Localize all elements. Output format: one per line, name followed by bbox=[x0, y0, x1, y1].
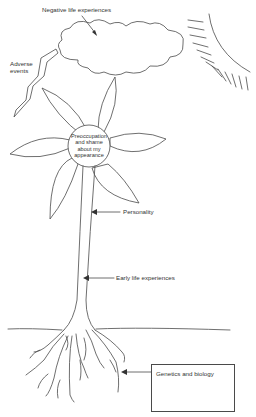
cloud-shape bbox=[58, 20, 183, 75]
label-negative-life-experiences: Negative life experiences bbox=[42, 6, 111, 13]
label-personality: Personality bbox=[123, 208, 154, 215]
label-adverse-line2: events bbox=[10, 67, 33, 74]
sun-icon bbox=[188, 14, 250, 90]
label-early-life-experiences: Early life experiences bbox=[116, 274, 175, 281]
label-flower-center: Preoccupation and shame about my appeara… bbox=[69, 133, 109, 159]
roots bbox=[26, 330, 125, 402]
center-line4: appearance bbox=[69, 152, 109, 158]
label-genetics-and-biology: Genetics and biology bbox=[156, 370, 214, 377]
stem bbox=[64, 166, 95, 330]
label-adverse-events: Adverse events bbox=[10, 60, 33, 75]
ground-line bbox=[8, 328, 230, 330]
genetics-box: Genetics and biology bbox=[151, 364, 235, 412]
label-adverse-line1: Adverse bbox=[10, 60, 33, 67]
